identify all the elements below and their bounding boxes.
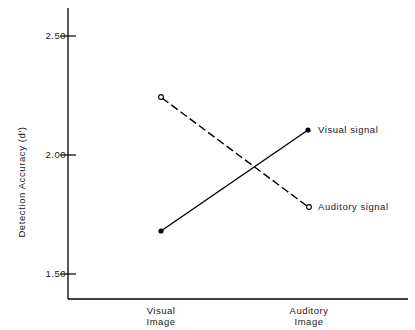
x-tick-label-visual-image-line1: Visual — [116, 305, 206, 316]
y-tick-label-2.50: 2.50 — [26, 30, 66, 41]
data-point-visual-signal-visual-image — [158, 228, 163, 233]
x-tick-label-auditory-image: Auditory Image — [264, 305, 354, 327]
x-tick-label-auditory-image-line2: Image — [264, 316, 354, 327]
y-tick-label-group: 2.50 2.00 1.50 — [22, 0, 66, 330]
x-tick-label-visual-image: Visual Image — [116, 305, 206, 327]
series-line-auditory-signal — [162, 98, 307, 206]
data-point-visual-signal-auditory-image — [305, 127, 310, 132]
x-tick-label-visual-image-line2: Image — [116, 316, 206, 327]
y-tick-label-2.00: 2.00 — [26, 149, 66, 160]
y-tick-label-1.50: 1.50 — [26, 268, 66, 279]
data-point-auditory-signal-visual-image — [159, 95, 164, 100]
chart-figure: Detection Accuracy (d') 2.50 2.00 1.50 V… — [0, 0, 415, 330]
data-point-auditory-signal-auditory-image — [307, 205, 312, 210]
series-annotation-visual-signal: Visual signal — [318, 124, 378, 135]
series-line-visual-signal — [161, 130, 308, 231]
series-annotation-auditory-signal: Auditory signal — [318, 201, 389, 212]
x-tick-label-auditory-image-line1: Auditory — [264, 305, 354, 316]
